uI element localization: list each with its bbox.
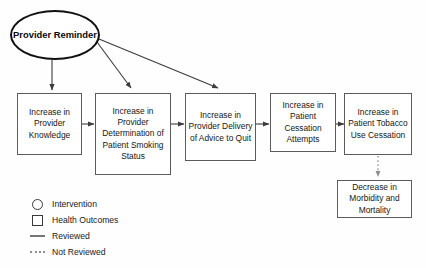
legend-label-not-reviewed: Not Reviewed — [48, 247, 106, 257]
dotted-line-icon — [26, 251, 48, 253]
legend-item-health-outcomes: Health Outcomes — [26, 212, 118, 228]
node-increase-patient-cessation-attempts[interactable]: Increase in Patient Cessation Attempts — [270, 93, 336, 152]
legend-item-intervention: Intervention — [26, 196, 118, 212]
diagram-canvas: Provider Reminder Increase in Provider K… — [0, 0, 426, 268]
legend: Intervention Health Outcomes Reviewed No… — [26, 196, 118, 260]
solid-line-icon — [26, 235, 48, 237]
circle-icon — [26, 199, 48, 210]
legend-label-reviewed: Reviewed — [48, 231, 90, 241]
node-increase-provider-determination[interactable]: Increase in Provider Determination of Pa… — [95, 93, 171, 175]
edge-intervention-to-box2 — [97, 42, 131, 88]
legend-item-not-reviewed: Not Reviewed — [26, 244, 118, 260]
edge-intervention-to-box3 — [99, 39, 218, 88]
node-increase-patient-tobacco-use-cessation[interactable]: Increase in Patient Tobacco Use Cessatio… — [344, 93, 412, 155]
node-decrease-morbidity-mortality[interactable]: Decrease in Morbidity and Mortality — [337, 180, 412, 218]
legend-label-health-outcomes: Health Outcomes — [48, 215, 118, 225]
node-provider-reminder[interactable]: Provider Reminder — [10, 10, 100, 60]
node-increase-provider-knowledge[interactable]: Increase in Provider Knowledge — [17, 93, 82, 155]
node-increase-provider-delivery-advice[interactable]: Increase in Provider Delivery of Advice … — [185, 93, 256, 161]
legend-label-intervention: Intervention — [48, 199, 97, 209]
square-icon — [26, 215, 48, 226]
legend-item-reviewed: Reviewed — [26, 228, 118, 244]
